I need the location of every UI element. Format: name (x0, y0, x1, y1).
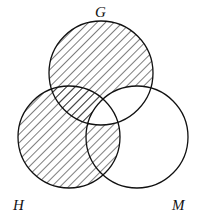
venn-diagram: G H M (0, 0, 199, 223)
label-g: G (95, 4, 106, 20)
venn-svg: G H M (0, 0, 199, 223)
label-m: M (171, 197, 186, 213)
label-h: H (12, 197, 25, 213)
